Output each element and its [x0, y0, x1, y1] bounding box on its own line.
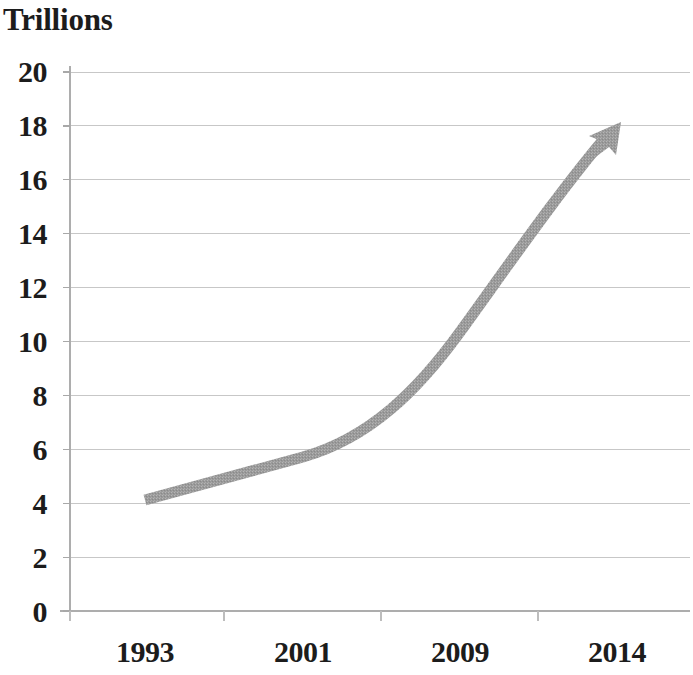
- x-tick-label-1993: 1993: [95, 637, 195, 667]
- y-tick-label-14: 14: [0, 219, 47, 249]
- x-tick-label-2009: 2009: [410, 637, 510, 667]
- chart-plot-area: [0, 0, 693, 675]
- y-tick-label-8: 8: [0, 381, 47, 411]
- x-axis-ticks: [70, 611, 538, 621]
- y-tick-label-18: 18: [0, 111, 47, 141]
- y-axis-ticks: [63, 72, 70, 611]
- y-tick-label-16: 16: [0, 165, 47, 195]
- x-tick-label-2014: 2014: [567, 637, 667, 667]
- y-tick-label-4: 4: [0, 489, 47, 519]
- data-series-line: [145, 122, 621, 500]
- y-tick-label-10: 10: [0, 327, 47, 357]
- y-tick-label-20: 20: [0, 57, 47, 87]
- y-tick-label-12: 12: [0, 273, 47, 303]
- x-tick-label-2001: 2001: [253, 637, 353, 667]
- y-tick-label-0: 0: [0, 597, 47, 627]
- y-tick-label-2: 2: [0, 543, 47, 573]
- chart-container: Trillions: [0, 0, 693, 675]
- y-tick-label-6: 6: [0, 435, 47, 465]
